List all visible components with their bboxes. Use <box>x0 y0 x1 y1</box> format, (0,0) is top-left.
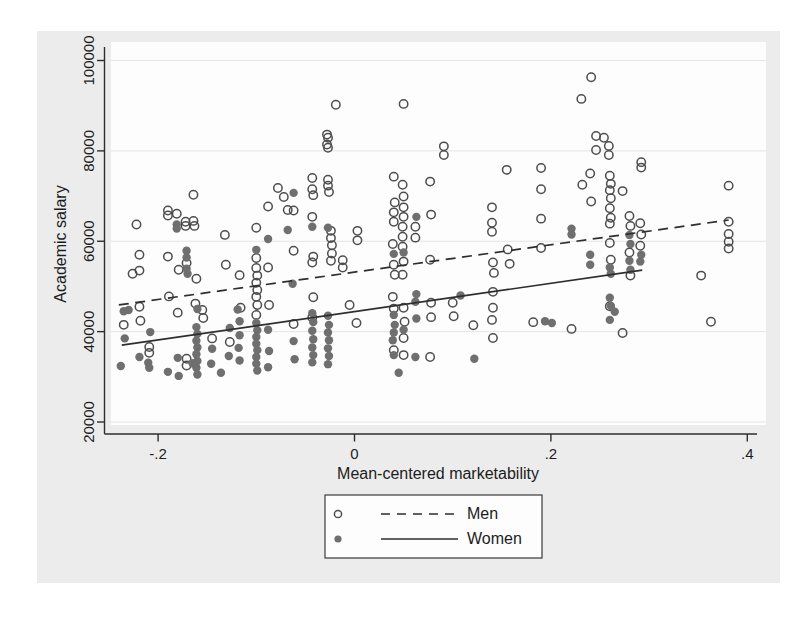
y-tick-label: 100000 <box>80 35 97 85</box>
women-point <box>399 248 407 256</box>
women-point <box>586 261 594 269</box>
women-point <box>586 251 594 259</box>
women-point <box>390 250 398 258</box>
plot-area <box>111 42 766 425</box>
y-tick-label: 20000 <box>80 401 97 443</box>
women-point <box>235 331 243 339</box>
women-point <box>290 355 298 363</box>
women-point <box>470 355 478 363</box>
women-point <box>252 246 260 254</box>
women-point <box>567 230 575 238</box>
women-point <box>324 223 332 231</box>
x-tick-label: -.2 <box>149 445 167 462</box>
x-tick-label: .2 <box>545 445 558 462</box>
figure-page: 20000400006000080000100000 -.20.2.4 Acad… <box>0 0 811 617</box>
women-point <box>234 344 242 352</box>
women-point <box>226 324 234 332</box>
women-point <box>325 352 333 360</box>
y-tick-label: 40000 <box>80 311 97 353</box>
women-point <box>390 311 398 319</box>
women-point <box>284 226 292 234</box>
women-point <box>636 257 644 265</box>
women-point <box>264 235 272 243</box>
women-point <box>412 213 420 221</box>
women-point <box>611 308 619 316</box>
women-point <box>309 318 317 326</box>
women-point <box>308 343 316 351</box>
women-point <box>626 240 634 248</box>
women-point <box>208 345 216 353</box>
women-point <box>264 326 272 334</box>
women-point <box>173 224 181 232</box>
legend-men-label: Men <box>467 505 498 522</box>
women-point <box>225 352 233 360</box>
women-point <box>308 358 316 366</box>
women-point <box>325 336 333 344</box>
women-point <box>325 321 333 329</box>
women-point <box>606 294 614 302</box>
scatter-chart: 20000400006000080000100000 -.20.2.4 Acad… <box>0 0 811 617</box>
women-point <box>390 351 398 359</box>
women-point <box>265 347 273 355</box>
women-point <box>193 370 201 378</box>
women-point <box>308 327 316 335</box>
women-point <box>121 334 129 342</box>
women-point <box>124 306 132 314</box>
women-point <box>174 354 182 362</box>
women-point <box>175 372 183 380</box>
women-point <box>399 326 407 334</box>
women-point <box>324 344 332 352</box>
women-point <box>164 368 172 376</box>
women-point <box>606 316 614 324</box>
women-point <box>117 362 125 370</box>
women-point <box>289 337 297 345</box>
women-point <box>217 369 225 377</box>
y-tick-label: 60000 <box>80 220 97 262</box>
women-point <box>411 353 419 361</box>
women-point <box>412 314 420 322</box>
women-point <box>324 328 332 336</box>
women-point <box>183 270 191 278</box>
women-point <box>412 290 420 298</box>
women-point <box>394 369 402 377</box>
y-axis-title: Academic salary <box>52 185 69 302</box>
women-point <box>308 309 316 317</box>
legend-women-label: Women <box>467 530 522 547</box>
women-point <box>309 351 317 359</box>
women-point <box>308 223 316 231</box>
women-point <box>391 321 399 329</box>
women-point <box>390 328 398 336</box>
women-point <box>625 256 633 264</box>
x-tick-label: .4 <box>741 445 754 462</box>
women-point <box>146 328 154 336</box>
women-point <box>207 360 215 368</box>
women-point <box>264 363 272 371</box>
women-point <box>135 353 143 361</box>
x-tick-label: 0 <box>350 445 358 462</box>
women-point <box>253 366 261 374</box>
women-point <box>548 319 556 327</box>
x-axis-title: Mean-centered marketability <box>337 465 539 482</box>
women-point <box>289 189 297 197</box>
women-point <box>193 305 201 313</box>
women-point <box>145 364 153 372</box>
women-point <box>389 336 397 344</box>
women-point <box>235 317 243 325</box>
legend-box <box>325 495 542 558</box>
women-point <box>309 335 317 343</box>
women-point <box>182 253 190 261</box>
women-point <box>233 305 241 313</box>
legend-women-marker-icon <box>334 535 341 542</box>
women-point <box>235 356 243 364</box>
women-point <box>324 360 332 368</box>
y-tick-label: 80000 <box>80 130 97 172</box>
legend: Men Women <box>325 495 542 558</box>
